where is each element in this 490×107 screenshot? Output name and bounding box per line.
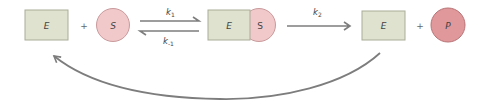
catalysis-arrow: k2 [287,7,350,30]
enzyme-recycle-arrow-icon [54,53,380,99]
substrate-label: S [110,21,116,31]
reverse-arrow-icon [140,31,199,35]
complex-enzyme-label: E [226,21,232,31]
enzyme-label-1: E [44,21,50,31]
rate-k1: k1 [166,7,175,18]
forward-arrow-icon [287,22,350,30]
rate-k-minus-1: k-1 [163,36,174,47]
complex-substrate-label: S [257,21,263,31]
plus-operator-2: + [416,21,424,31]
enzyme-label-2: E [381,21,387,31]
plus-operator-1: + [80,21,88,31]
substrate-circle: S [97,9,130,42]
enzyme-reaction-diagram: E + S k1 k-1 E S k2 E + P [0,0,490,107]
product-label: P [445,21,451,31]
product-circle: P [431,8,465,42]
rate-k2: k2 [313,7,322,18]
enzyme-box-2: E [362,11,405,40]
reversible-arrows: k1 k-1 [140,7,199,47]
enzyme-substrate-complex: E S [208,9,276,42]
forward-arrow-icon [140,17,199,21]
enzyme-box-1: E [25,10,68,40]
